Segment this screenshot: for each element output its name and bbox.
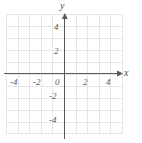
x-tick-label-2: 2 [83,78,88,87]
x-tick-label-0: 0 [55,78,60,87]
y-tick-label-neg4: -4 [49,116,57,125]
x-axis-label: x [124,68,128,78]
y-axis-label: y [60,1,64,11]
y-axis [62,13,68,139]
y-tick-label-2: 2 [54,47,59,56]
graph-canvas [0,0,142,143]
x-axis [4,71,123,77]
x-tick-label-neg4: -4 [10,78,18,87]
coordinate-plane-graph: -4 -2 0 2 4 4 2 -2 -4 x y [0,0,142,143]
y-tick-label-neg2: -2 [49,92,57,101]
y-tick-label-4: 4 [54,23,59,32]
x-tick-label-4: 4 [106,78,111,87]
y-axis-arrowhead [62,13,68,19]
x-tick-label-neg2: -2 [33,78,41,87]
